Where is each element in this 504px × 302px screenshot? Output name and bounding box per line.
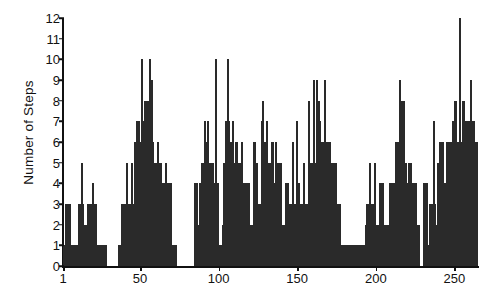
x-axis-tick-label: 150 xyxy=(286,272,308,285)
y-axis-tick-mark xyxy=(59,224,64,226)
x-axis-tick-label: 50 xyxy=(133,272,147,285)
plot-area: 0123456789101112 xyxy=(63,18,478,266)
bar xyxy=(105,245,107,266)
y-axis-tick-mark xyxy=(59,59,64,61)
y-axis-tick-mark xyxy=(59,141,64,143)
chart-figure: Number of Steps 0123456789101112 1501001… xyxy=(0,0,504,302)
y-axis-tick-mark xyxy=(59,121,64,123)
x-axis-tick-label: 250 xyxy=(444,272,466,285)
y-axis-tick-mark xyxy=(59,203,64,205)
bar xyxy=(175,245,177,266)
x-axis-tick-label: 100 xyxy=(208,272,230,285)
x-axis-tick-mark xyxy=(454,266,456,271)
bar xyxy=(476,142,478,266)
y-axis-tick-mark xyxy=(59,17,64,19)
y-axis-tick-mark xyxy=(59,245,64,247)
x-axis-tick-mark xyxy=(297,266,299,271)
x-axis-tick-label: 1 xyxy=(59,272,66,285)
y-axis-tick-mark xyxy=(59,162,64,164)
x-axis-tick-label: 200 xyxy=(365,272,387,285)
x-axis-tick-mark xyxy=(219,266,221,271)
x-axis-line xyxy=(62,266,479,268)
bar xyxy=(418,225,420,266)
x-axis-tick-mark xyxy=(140,266,142,271)
x-axis-tick-mark xyxy=(63,266,65,271)
y-axis-tick-mark xyxy=(59,38,64,40)
y-axis-tick-mark xyxy=(59,100,64,102)
y-axis-tick-mark xyxy=(59,79,64,81)
bar-series xyxy=(63,18,478,266)
y-axis-title: Number of Steps xyxy=(21,43,36,223)
x-axis-tick-mark xyxy=(376,266,378,271)
y-axis-tick-mark xyxy=(59,183,64,185)
